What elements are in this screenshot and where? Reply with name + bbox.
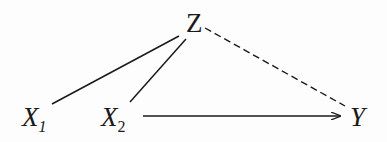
node-x2-label: X bbox=[101, 102, 118, 132]
node-z-label: Z bbox=[186, 8, 203, 38]
edge-x2-z bbox=[130, 39, 186, 102]
node-x2: X2 bbox=[101, 104, 126, 131]
node-y-label: Y bbox=[350, 102, 365, 132]
node-x1-label: X bbox=[22, 102, 39, 132]
edge-z-y-dashed bbox=[205, 28, 345, 106]
node-x2-subscript: 2 bbox=[118, 118, 126, 135]
node-x1: X1 bbox=[22, 104, 47, 131]
node-z: Z bbox=[186, 10, 203, 37]
node-x1-subscript: 1 bbox=[39, 118, 47, 135]
node-y: Y bbox=[350, 104, 365, 131]
edge-x1-z bbox=[52, 36, 179, 104]
causal-diagram: Z X1 X2 Y bbox=[0, 0, 387, 142]
